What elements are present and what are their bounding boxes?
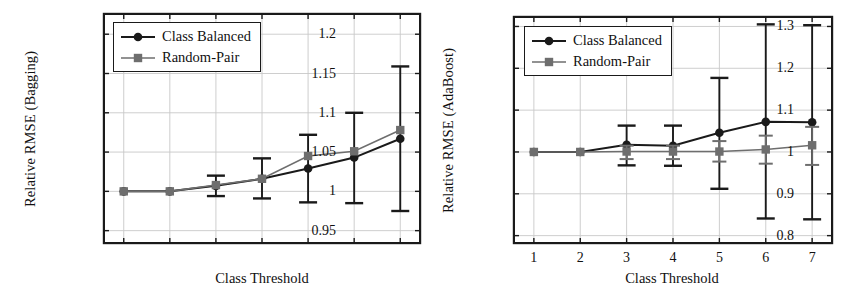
x-tick-label-adaboost-0: 1 xyxy=(530,250,537,266)
y-axis-label-bagging: Relative RMSE (Bagging) xyxy=(22,13,39,244)
x-tick-label-adaboost-6: 7 xyxy=(809,250,816,266)
legend-bagging: Class BalancedRandom-Pair xyxy=(113,22,261,72)
y-tick-label-adaboost-5: 1.3 xyxy=(734,18,794,34)
legend-adaboost: Class BalancedRandom-Pair xyxy=(524,26,672,76)
legend-label: Random-Pair xyxy=(162,50,239,65)
x-axis-label-bagging: Class Threshold xyxy=(142,270,382,287)
x-tick-label-adaboost-3: 4 xyxy=(670,250,677,266)
y-tick-label-bagging-3: 1.1 xyxy=(276,105,336,121)
square-marker-icon xyxy=(120,51,156,65)
x-tick-label-adaboost-4: 5 xyxy=(716,250,723,266)
legend-label: Class Balanced xyxy=(573,33,662,48)
legend-label: Class Balanced xyxy=(162,29,251,44)
chart-panel-bagging: Relative RMSE (Bagging) Class Threshold … xyxy=(0,0,434,305)
legend-label: Random-Pair xyxy=(573,54,650,69)
y-tick-label-adaboost-4: 1.2 xyxy=(734,60,794,76)
legend-entry-adaboost-0: Class Balanced xyxy=(531,30,662,51)
y-tick-label-adaboost-2: 1 xyxy=(734,144,794,160)
y-tick-label-bagging-0: 0.95 xyxy=(276,223,336,239)
chart-panel-adaboost: Relative RMSE (AdaBoost) Class Threshold… xyxy=(434,0,868,305)
y-tick-label-adaboost-0: 0.8 xyxy=(734,228,794,244)
x-tick-label-adaboost-5: 6 xyxy=(762,250,769,266)
y-tick-label-adaboost-3: 1.1 xyxy=(734,102,794,118)
legend-entry-bagging-1: Random-Pair xyxy=(120,47,251,68)
circle-marker-icon xyxy=(120,30,156,44)
circle-marker-icon xyxy=(531,34,567,48)
legend-entry-adaboost-1: Random-Pair xyxy=(531,51,662,72)
y-tick-label-bagging-4: 1.15 xyxy=(276,66,336,82)
x-tick-label-adaboost-1: 2 xyxy=(577,250,584,266)
y-tick-label-adaboost-1: 0.9 xyxy=(734,186,794,202)
y-tick-label-bagging-1: 1 xyxy=(276,183,336,199)
y-tick-label-bagging-2: 1.05 xyxy=(276,144,336,160)
x-tick-label-adaboost-2: 3 xyxy=(623,250,630,266)
y-axis-label-adaboost: Relative RMSE (AdaBoost) xyxy=(440,16,457,244)
x-axis-label-adaboost: Class Threshold xyxy=(552,270,792,287)
legend-entry-bagging-0: Class Balanced xyxy=(120,26,251,47)
square-marker-icon xyxy=(531,55,567,69)
y-tick-label-bagging-5: 1.2 xyxy=(276,26,336,42)
figure-two-panel-error-bar-charts: Relative RMSE (Bagging) Class Threshold … xyxy=(0,0,868,305)
